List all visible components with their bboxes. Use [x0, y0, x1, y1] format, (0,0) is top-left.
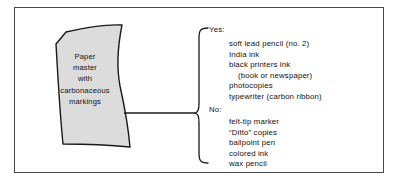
- list-item: felt-tip marker: [229, 117, 279, 128]
- list-item: photocopies: [229, 81, 322, 92]
- grouping-brace: [195, 28, 208, 163]
- paper-caption-line-5: markings: [43, 96, 127, 107]
- list-item: colored ink: [229, 149, 279, 160]
- list-item: typewriter (carbon ribbon): [229, 92, 322, 103]
- list-item: soft lead pencil (no. 2): [229, 39, 322, 50]
- list-item: India ink: [229, 50, 322, 61]
- list-item: (book or newspaper): [229, 71, 322, 82]
- paper-caption-line-4: carbonaceous: [43, 85, 127, 96]
- list-item: “Ditto” copies: [229, 128, 279, 139]
- paper-caption: Paper master with carbonaceous markings: [43, 51, 127, 107]
- category-label-yes: Yes:: [209, 25, 225, 34]
- paper-caption-line-1: Paper: [43, 51, 127, 62]
- list-item: wax pencil: [229, 159, 279, 170]
- figure-root: Paper master with carbonaceous markings …: [0, 0, 396, 186]
- category-list-no: felt-tip marker “Ditto” copies ballpoint…: [229, 117, 279, 170]
- category-label-no: No:: [209, 105, 222, 114]
- paper-caption-line-2: master: [43, 62, 127, 73]
- category-list-yes: soft lead pencil (no. 2) India ink black…: [229, 39, 322, 103]
- list-item: ballpoint pen: [229, 138, 279, 149]
- paper-caption-line-3: with: [43, 73, 127, 84]
- list-item: black printers ink: [229, 60, 322, 71]
